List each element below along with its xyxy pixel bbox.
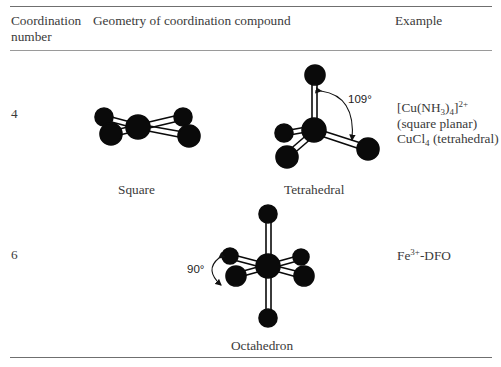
octahedron-diagram [212, 205, 314, 327]
atom-front-left [226, 266, 246, 286]
atom-front-right [294, 266, 314, 286]
atom-top [259, 205, 277, 223]
atom-center [302, 118, 326, 142]
atom-center [126, 115, 150, 139]
atom-left-front [276, 146, 298, 168]
atom-left-back [275, 124, 293, 142]
tetrahedral-diagram [275, 65, 379, 168]
atom-back-left [222, 248, 238, 264]
angle-arc-90 [212, 258, 221, 285]
atom-center [256, 254, 280, 278]
atom-bottom [259, 309, 277, 327]
angle-109-label: 109° [348, 93, 372, 105]
atom-top [305, 65, 325, 85]
atom-back-right [293, 249, 309, 265]
square-planar-diagram [95, 108, 200, 147]
atom-right [357, 138, 379, 160]
atom-front-right [178, 125, 200, 147]
atom-back-right [174, 108, 192, 126]
angle-90-label: 90° [187, 263, 204, 275]
atom-front-left [100, 123, 122, 145]
geometry-diagrams: 109° 90° [0, 0, 501, 367]
